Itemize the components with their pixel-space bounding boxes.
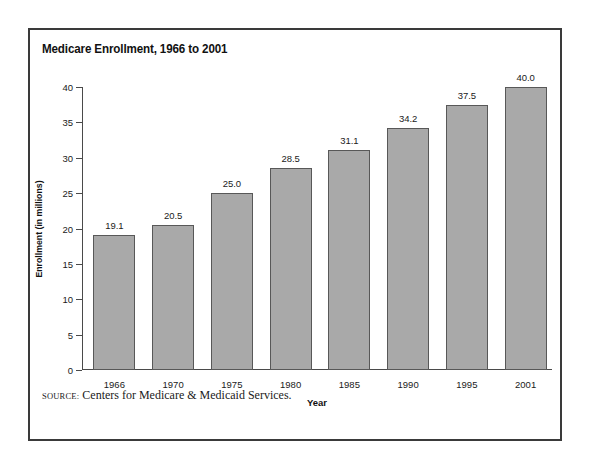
- y-tick-label: 35: [62, 117, 73, 128]
- bar-group[interactable]: 28.51980: [270, 87, 312, 370]
- source-note: Source: Centers for Medicare & Medicaid …: [42, 388, 292, 403]
- bar[interactable]: [446, 105, 488, 370]
- bar-value-label: 34.2: [399, 113, 418, 124]
- source-text: Centers for Medicare & Medicaid Services…: [82, 388, 291, 402]
- bar-group[interactable]: 20.51970: [152, 87, 194, 370]
- y-tick-label: 5: [68, 329, 73, 340]
- bar-value-label: 19.1: [105, 220, 124, 231]
- bar-group[interactable]: 34.21990: [387, 87, 429, 370]
- y-tick-label: 10: [62, 294, 73, 305]
- bar[interactable]: [270, 168, 312, 370]
- x-tick-label: 1985: [339, 379, 360, 390]
- bar-group[interactable]: 25.01975: [211, 87, 253, 370]
- bar-value-label: 20.5: [164, 210, 183, 221]
- x-tick-label: 1990: [398, 379, 419, 390]
- source-label: Source:: [42, 391, 79, 401]
- x-tick-label: 1995: [456, 379, 477, 390]
- bar-group[interactable]: 19.11966: [93, 87, 135, 370]
- bar-group[interactable]: 37.51995: [446, 87, 488, 370]
- bar[interactable]: [211, 193, 253, 370]
- chart-title: Medicare Enrollment, 1966 to 2001: [42, 42, 227, 56]
- y-tick-label: 20: [62, 223, 73, 234]
- bar[interactable]: [93, 235, 135, 370]
- y-axis-title: Enrollment (in millions): [33, 180, 44, 277]
- plot-area: Enrollment (in millions) 051015202530354…: [82, 87, 552, 370]
- y-tick-mark: [76, 370, 82, 371]
- y-tick-label: 25: [62, 188, 73, 199]
- bar-series: 19.1196620.5197025.0197528.5198031.11985…: [82, 87, 552, 370]
- x-axis-title: Year: [307, 397, 327, 408]
- bar-group[interactable]: 40.02001: [505, 87, 547, 370]
- bar-value-label: 28.5: [281, 153, 300, 164]
- bar-group[interactable]: 31.11985: [328, 87, 370, 370]
- y-tick-label: 40: [62, 82, 73, 93]
- figure-panel: Medicare Enrollment, 1966 to 2001 Enroll…: [28, 28, 562, 441]
- y-tick-label: 0: [68, 365, 73, 376]
- y-tick-label: 15: [62, 258, 73, 269]
- bar[interactable]: [328, 150, 370, 370]
- bar[interactable]: [505, 87, 547, 370]
- bar[interactable]: [387, 128, 429, 370]
- bar-value-label: 37.5: [458, 90, 477, 101]
- bar-value-label: 40.0: [516, 72, 535, 83]
- bar[interactable]: [152, 225, 194, 370]
- bar-value-label: 31.1: [340, 135, 359, 146]
- y-tick-label: 30: [62, 152, 73, 163]
- x-tick-label: 2001: [515, 379, 536, 390]
- bar-value-label: 25.0: [223, 178, 242, 189]
